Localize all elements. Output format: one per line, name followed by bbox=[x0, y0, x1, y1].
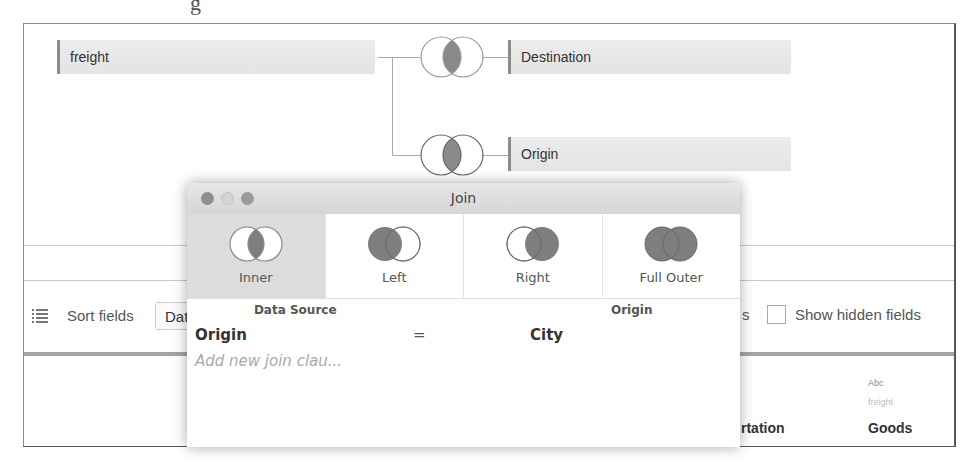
column-source: freight bbox=[868, 397, 893, 407]
right-join-icon bbox=[505, 224, 561, 264]
clause-operator[interactable]: = bbox=[413, 326, 426, 344]
table-origin[interactable]: Origin bbox=[508, 137, 791, 171]
clause-header-left[interactable]: Data Source bbox=[187, 298, 464, 322]
table-freight-label: freight bbox=[70, 49, 109, 65]
left-join-icon bbox=[366, 224, 422, 264]
full-outer-join-icon bbox=[643, 224, 699, 264]
join-type-right[interactable]: Right bbox=[464, 214, 603, 298]
page-heading-fragment: g bbox=[190, 0, 201, 16]
inner-join-icon bbox=[228, 224, 284, 264]
toolbar-label-fragment: s bbox=[742, 306, 750, 323]
table-destination-label: Destination bbox=[521, 49, 591, 65]
connector-line bbox=[482, 57, 508, 58]
join-type-inner-label: Inner bbox=[187, 270, 325, 285]
clause-right-field[interactable]: City bbox=[530, 326, 563, 344]
show-hidden-fields-checkbox[interactable] bbox=[767, 305, 786, 324]
sort-fields-label: Sort fields bbox=[67, 307, 134, 324]
show-hidden-fields-label[interactable]: Show hidden fields bbox=[795, 306, 921, 323]
column-header-partial[interactable]: rtation bbox=[741, 420, 785, 436]
inner-join-icon[interactable] bbox=[419, 35, 485, 79]
join-type-left[interactable]: Left bbox=[326, 214, 465, 298]
connector-line bbox=[392, 155, 420, 156]
clause-header-right[interactable]: Origin bbox=[464, 298, 741, 322]
join-clause-header: Data Source Origin bbox=[187, 298, 740, 322]
join-type-selector: Inner Left Right Ful bbox=[187, 214, 740, 299]
table-origin-label: Origin bbox=[521, 146, 558, 162]
connector-line bbox=[482, 155, 508, 156]
connector-line bbox=[392, 57, 393, 155]
join-type-inner[interactable]: Inner bbox=[187, 214, 326, 298]
column-header-goods[interactable]: Goods bbox=[868, 420, 912, 436]
join-type-full-outer-label: Full Outer bbox=[603, 270, 741, 285]
join-type-full-outer[interactable]: Full Outer bbox=[603, 214, 741, 298]
dialog-title: Join bbox=[187, 190, 740, 206]
table-destination[interactable]: Destination bbox=[508, 40, 791, 74]
dialog-titlebar[interactable]: Join bbox=[187, 183, 740, 215]
table-freight[interactable]: freight bbox=[57, 40, 375, 74]
column-type-icon[interactable]: Abc bbox=[868, 378, 884, 388]
join-type-left-label: Left bbox=[326, 270, 464, 285]
join-clause-row[interactable]: Origin = City bbox=[187, 323, 740, 347]
list-icon[interactable] bbox=[32, 309, 48, 323]
connector-line bbox=[378, 57, 420, 58]
join-type-right-label: Right bbox=[464, 270, 602, 285]
inner-join-icon[interactable] bbox=[419, 133, 485, 177]
join-dialog: Join Inner Left bbox=[187, 183, 740, 447]
clause-left-field[interactable]: Origin bbox=[195, 326, 247, 344]
add-join-clause[interactable]: Add new join clau... bbox=[195, 352, 342, 370]
